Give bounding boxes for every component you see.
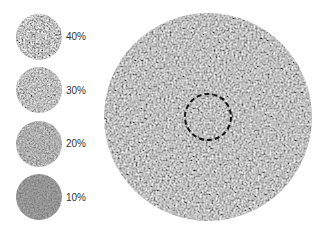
legend-disc-10 xyxy=(16,174,62,220)
legend-disc-20 xyxy=(16,121,62,167)
legend-label-10: 10% xyxy=(66,192,86,203)
main-noise-disc xyxy=(104,13,312,221)
legend-label-20: 20% xyxy=(66,138,86,149)
legend-label-30: 30% xyxy=(66,85,86,96)
stimulus-figure xyxy=(0,0,326,232)
legend-disc-40 xyxy=(16,14,62,60)
legend-label-40: 40% xyxy=(66,31,86,42)
legend-disc-30 xyxy=(16,67,62,113)
